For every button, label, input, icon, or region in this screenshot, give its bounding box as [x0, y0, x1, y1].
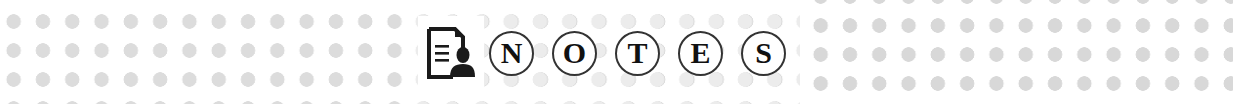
document-person-icon — [425, 26, 475, 80]
letter-circle-t: T — [615, 31, 660, 76]
letter-circle-s: S — [741, 31, 786, 76]
notes-banner: N O T E S — [425, 26, 804, 80]
letter-circle-o: O — [552, 31, 597, 76]
letter-circle-n: N — [489, 31, 534, 76]
letter-circle-e: E — [678, 31, 723, 76]
dot-pattern-right — [800, 0, 1233, 104]
